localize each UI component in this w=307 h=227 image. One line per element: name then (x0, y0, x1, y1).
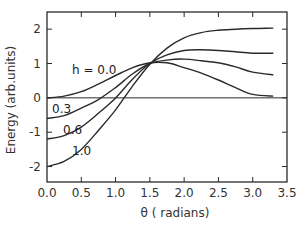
x-tick-label: 3.5 (277, 186, 296, 200)
curve-label: 1.0 (72, 144, 91, 158)
curve-labels: h = 0.00.30.61.0 (52, 63, 116, 158)
curve-label: h = 0.0 (72, 63, 116, 77)
y-axis-label: Energy (arb.units) (4, 46, 18, 154)
y-tick-label: -1 (29, 125, 41, 139)
energy-vs-theta-chart: 0.00.51.01.52.02.53.03.5-2-1012 h = 0.00… (0, 0, 307, 227)
x-tick-label: 1.5 (140, 186, 159, 200)
x-tick-label: 1.0 (106, 186, 125, 200)
x-axis-label: θ ( radians) (141, 206, 210, 220)
curve-label: 0.6 (63, 123, 82, 137)
y-tick-label: -2 (29, 160, 41, 174)
y-tick-label: 1 (33, 57, 41, 71)
x-tick-label: 0.5 (72, 186, 91, 200)
y-tick-label: 0 (33, 91, 41, 105)
x-tick-label: 0.0 (37, 186, 56, 200)
curve-label: 0.3 (52, 102, 71, 116)
x-tick-label: 3.0 (243, 186, 262, 200)
x-tick-label: 2.0 (175, 186, 194, 200)
y-tick-label: 2 (33, 22, 41, 36)
x-tick-label: 2.5 (209, 186, 228, 200)
